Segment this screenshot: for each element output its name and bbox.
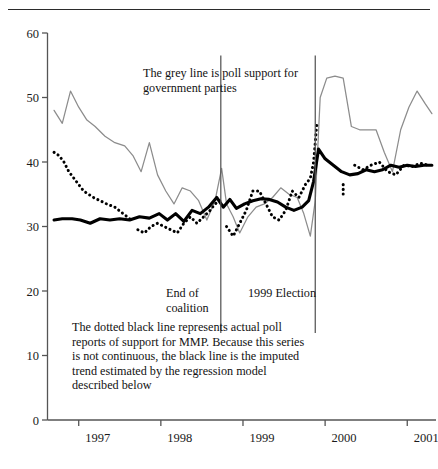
x-tick-label: 1998 bbox=[167, 431, 192, 445]
annotation-end-of-coalition: End of coalition bbox=[166, 286, 209, 315]
x-tick-label: 1997 bbox=[85, 431, 110, 445]
x-tick-label: 2001 bbox=[414, 431, 438, 445]
y-tick-label: 40 bbox=[27, 156, 40, 170]
y-tick-label: 60 bbox=[27, 27, 40, 41]
grey-series-path bbox=[54, 76, 432, 236]
annotation-1999-election: 1999 Election bbox=[248, 286, 316, 301]
y-tick-label: 50 bbox=[27, 91, 40, 105]
y-tick-label: 10 bbox=[27, 349, 40, 363]
chart-figure: 010203040506019971998199920002001 The gr… bbox=[0, 0, 438, 469]
black-series-path bbox=[54, 149, 432, 223]
dotted-poll-line bbox=[54, 152, 131, 220]
black-trend-line bbox=[54, 149, 432, 223]
x-tick-label: 2000 bbox=[332, 431, 357, 445]
y-tick-label: 30 bbox=[27, 220, 40, 234]
x-tick-label: 1999 bbox=[249, 431, 274, 445]
annotation-grey-line: The grey line is poll support for govern… bbox=[143, 66, 298, 95]
dotted-poll-line bbox=[227, 123, 317, 236]
y-tick-label: 0 bbox=[33, 414, 39, 428]
y-tick-label: 20 bbox=[27, 285, 40, 299]
grey-line bbox=[54, 76, 432, 236]
annotation-dotted-line: The dotted black line represents actual … bbox=[72, 320, 304, 393]
